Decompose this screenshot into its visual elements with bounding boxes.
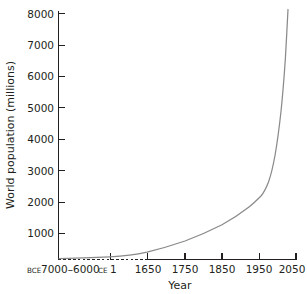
x-tick-label-1850: 1850	[209, 263, 236, 275]
y-tick-label-4000: 4000	[27, 133, 54, 145]
x-tick-label-1950: 1950	[246, 263, 273, 275]
y-axis-title: World population (millions)	[4, 61, 17, 209]
x-tick-era-ce: CE	[98, 266, 108, 275]
y-tick-label-3000: 3000	[27, 165, 54, 177]
chart-canvas: 8000 7000 6000 5000 4000 3000 2000 1000 …	[0, 0, 307, 294]
y-tick-label-8000: 8000	[27, 8, 54, 20]
world-population-curve	[59, 10, 288, 259]
x-axis-tick-labels: BCE 7000–6000 CE 1 1650 1750 1850 1950 2…	[27, 263, 305, 275]
x-tick-label-1: 1	[110, 263, 117, 275]
y-axis-tick-labels: 8000 7000 6000 5000 4000 3000 2000 1000	[27, 8, 54, 240]
x-tick-label-1750: 1750	[172, 263, 199, 275]
y-tick-label-7000: 7000	[27, 39, 54, 51]
x-tick-label-2050: 2050	[279, 263, 306, 275]
x-tick-label-1650: 1650	[135, 263, 162, 275]
world-population-chart: 8000 7000 6000 5000 4000 3000 2000 1000 …	[0, 0, 307, 294]
x-tick-era-bce: BCE	[27, 266, 42, 275]
x-tick-label-7000-6000: 7000–6000	[41, 263, 100, 275]
x-axis-title: Year	[167, 279, 192, 292]
y-tick-label-5000: 5000	[27, 102, 54, 114]
y-tick-label-2000: 2000	[27, 196, 54, 208]
y-axis-ticks	[59, 14, 65, 234]
y-tick-label-6000: 6000	[27, 70, 54, 82]
y-tick-label-1000: 1000	[27, 227, 54, 239]
